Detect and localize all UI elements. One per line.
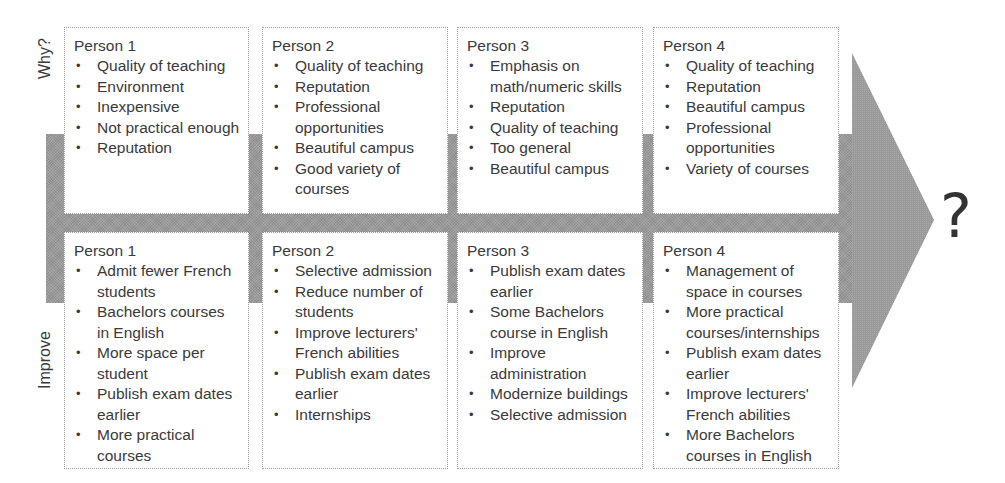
list-item: •Bachelors courses in English (74, 302, 240, 343)
why-box-person-3: Person 3 •Emphasis on math/numeric skill… (457, 27, 643, 214)
bullet-icon: • (274, 138, 279, 159)
bullet-icon: • (469, 138, 474, 159)
list-item: •More practical courses (74, 425, 240, 466)
bullet-icon: • (469, 97, 474, 118)
bullet-icon: • (469, 343, 474, 364)
bullet-icon: • (274, 159, 279, 180)
bullet-icon: • (274, 97, 279, 118)
list-item: •Reputation (663, 77, 830, 98)
list-item: •Variety of courses (663, 159, 830, 180)
list-item: •Reputation (467, 97, 634, 118)
bullet-icon: • (469, 384, 474, 405)
box-title: Person 2 (272, 36, 439, 56)
why-box-person-4: Person 4 •Quality of teaching •Reputatio… (653, 27, 839, 214)
bullet-icon: • (274, 364, 279, 385)
box-title: Person 3 (467, 36, 634, 56)
bullet-icon: • (76, 56, 81, 77)
improve-box-person-3: Person 3 •Publish exam dates earlier •So… (457, 232, 643, 469)
list-item: •Publish exam dates earlier (272, 364, 439, 405)
list-item: •Professional opportunities (272, 97, 439, 138)
improve-box-person-4: Person 4 •Management of space in courses… (653, 232, 839, 469)
list-item: •Beautiful campus (467, 159, 634, 180)
list-item: •Environment (74, 77, 240, 98)
bullet-icon: • (469, 261, 474, 282)
bullet-icon: • (274, 323, 279, 344)
bullet-icon: • (76, 118, 81, 139)
bullet-icon: • (469, 56, 474, 77)
row-label-improve: Improve (36, 331, 54, 389)
why-box-person-1: Person 1 •Quality of teaching •Environme… (64, 27, 249, 214)
list-item: •Selective admission (272, 261, 439, 282)
list-item: •Quality of teaching (74, 56, 240, 77)
list-item: •Internships (272, 405, 439, 426)
reason-list: •Quality of teaching •Environment •Inexp… (74, 56, 240, 159)
bullet-icon: • (665, 97, 670, 118)
list-item: •Improve administration (467, 343, 634, 384)
list-item: •Modernize buildings (467, 384, 634, 405)
suggestion-list: •Publish exam dates earlier •Some Bachel… (467, 261, 634, 425)
list-item: •Emphasis on math/numeric skills (467, 56, 634, 97)
list-item: •Publish exam dates earlier (467, 261, 634, 302)
reason-list: •Emphasis on math/numeric skills •Reputa… (467, 56, 634, 179)
list-item: •Publish exam dates earlier (663, 343, 830, 384)
bullet-icon: • (469, 159, 474, 180)
bullet-icon: • (274, 77, 279, 98)
bullet-icon: • (665, 118, 670, 139)
bullet-icon: • (665, 384, 670, 405)
row-label-why: Why? (36, 38, 54, 79)
box-title: Person 4 (663, 241, 830, 261)
list-item: •Not practical enough (74, 118, 240, 139)
bullet-icon: • (469, 302, 474, 323)
bullet-icon: • (274, 261, 279, 282)
list-item: •Publish exam dates earlier (74, 384, 240, 425)
bullet-icon: • (665, 77, 670, 98)
list-item: •More practical courses/internships (663, 302, 830, 343)
list-item: •Some Bachelors course in English (467, 302, 634, 343)
improve-box-person-1: Person 1 •Admit fewer French students •B… (64, 232, 249, 469)
list-item: •Good variety of courses (272, 159, 439, 200)
bullet-icon: • (76, 343, 81, 364)
bullet-icon: • (665, 425, 670, 446)
bullet-icon: • (469, 118, 474, 139)
bullet-icon: • (665, 343, 670, 364)
box-title: Person 1 (74, 36, 240, 56)
box-title: Person 1 (74, 241, 240, 261)
bullet-icon: • (274, 282, 279, 303)
list-item: •Quality of teaching (272, 56, 439, 77)
bullet-icon: • (76, 384, 81, 405)
bullet-icon: • (76, 261, 81, 282)
why-box-person-2: Person 2 •Quality of teaching •Reputatio… (262, 27, 448, 214)
bullet-icon: • (665, 56, 670, 77)
bullet-icon: • (469, 405, 474, 426)
outcome-question-mark: ? (940, 186, 972, 246)
bullet-icon: • (76, 138, 81, 159)
suggestion-list: •Selective admission •Reduce number of s… (272, 261, 439, 425)
list-item: •More Bachelors courses in English (663, 425, 830, 466)
box-title: Person 2 (272, 241, 439, 261)
suggestion-list: •Admit fewer French students •Bachelors … (74, 261, 240, 466)
bullet-icon: • (76, 302, 81, 323)
bullet-icon: • (76, 77, 81, 98)
bullet-icon: • (665, 159, 670, 180)
list-item: •Improve lecturers' French abilities (272, 323, 439, 364)
list-item: •Management of space in courses (663, 261, 830, 302)
bullet-icon: • (76, 425, 81, 446)
list-item: •More space per student (74, 343, 240, 384)
list-item: •Reduce number of students (272, 282, 439, 323)
list-item: •Quality of teaching (663, 56, 830, 77)
list-item: •Reputation (74, 138, 240, 159)
list-item: •Selective admission (467, 405, 634, 426)
box-title: Person 3 (467, 241, 634, 261)
list-item: •Too general (467, 138, 634, 159)
reason-list: •Quality of teaching •Reputation •Beauti… (663, 56, 830, 179)
list-item: •Beautiful campus (663, 97, 830, 118)
reason-list: •Quality of teaching •Reputation •Profes… (272, 56, 439, 200)
bullet-icon: • (274, 405, 279, 426)
list-item: •Reputation (272, 77, 439, 98)
list-item: •Inexpensive (74, 97, 240, 118)
bullet-icon: • (76, 97, 81, 118)
arrowhead-shape (852, 53, 934, 388)
list-item: •Professional opportunities (663, 118, 830, 159)
box-title: Person 4 (663, 36, 830, 56)
list-item: •Improve lecturers' French abilities (663, 384, 830, 425)
